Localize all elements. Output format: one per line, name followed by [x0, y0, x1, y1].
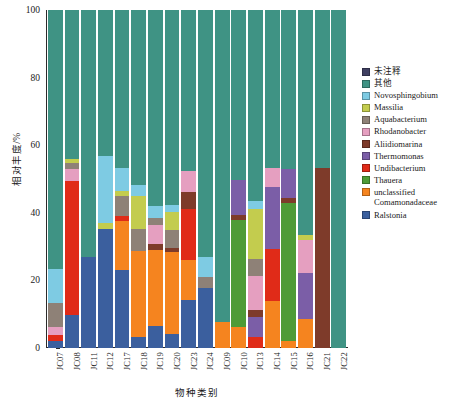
bar-segment[interactable] — [248, 201, 263, 208]
legend-item[interactable]: 未注释 — [362, 66, 462, 77]
bar-segment[interactable] — [331, 10, 346, 348]
bar-segment[interactable] — [98, 10, 113, 156]
bar-column[interactable] — [331, 10, 346, 348]
bar-segment[interactable] — [248, 317, 263, 337]
bar-column[interactable] — [231, 10, 246, 348]
legend-item[interactable]: Thauera — [362, 175, 462, 186]
bar-segment[interactable] — [65, 181, 80, 315]
bar-segment[interactable] — [281, 169, 296, 198]
bar-segment[interactable] — [248, 10, 263, 201]
bar-segment[interactable] — [265, 187, 280, 249]
bar-segment[interactable] — [115, 196, 130, 216]
bar-segment[interactable] — [148, 250, 163, 326]
legend-item[interactable]: Aquabacterium — [362, 114, 462, 125]
bar-segment[interactable] — [81, 10, 96, 257]
bar-segment[interactable] — [165, 205, 180, 212]
bar-segment[interactable] — [298, 240, 313, 273]
bar-segment[interactable] — [281, 203, 296, 341]
bar-segment[interactable] — [165, 252, 180, 334]
bar-column[interactable] — [165, 10, 180, 348]
bar-segment[interactable] — [115, 10, 130, 168]
bar-segment[interactable] — [181, 260, 196, 300]
bar-column[interactable] — [215, 10, 230, 348]
bar-segment[interactable] — [181, 300, 196, 348]
legend-item[interactable]: Thermomonas — [362, 151, 462, 162]
bar-column[interactable] — [298, 10, 313, 348]
bar-segment[interactable] — [148, 326, 163, 348]
bar-segment[interactable] — [165, 334, 180, 348]
bar-segment[interactable] — [231, 10, 246, 180]
bar-segment[interactable] — [181, 171, 196, 192]
bar-segment[interactable] — [148, 225, 163, 244]
bar-column[interactable] — [248, 10, 263, 348]
bar-segment[interactable] — [248, 276, 263, 310]
bar-segment[interactable] — [248, 259, 263, 276]
bar-segment[interactable] — [65, 169, 80, 182]
bar-segment[interactable] — [131, 10, 146, 185]
bar-segment[interactable] — [131, 196, 146, 229]
bar-segment[interactable] — [48, 269, 63, 303]
bar-segment[interactable] — [65, 315, 80, 348]
bar-segment[interactable] — [231, 220, 246, 327]
bar-segment[interactable] — [248, 310, 263, 317]
bar-column[interactable] — [315, 10, 330, 348]
bar-segment[interactable] — [281, 341, 296, 348]
bar-column[interactable] — [98, 10, 113, 348]
bar-column[interactable] — [131, 10, 146, 348]
bar-segment[interactable] — [115, 168, 130, 190]
bar-segment[interactable] — [131, 337, 146, 348]
bar-column[interactable] — [115, 10, 130, 348]
legend-item[interactable]: Massilia — [362, 102, 462, 113]
legend-item[interactable]: Aliidiomarina — [362, 139, 462, 150]
bar-segment[interactable] — [298, 10, 313, 235]
bar-segment[interactable] — [265, 168, 280, 188]
bar-column[interactable] — [181, 10, 196, 348]
bar-segment[interactable] — [98, 156, 113, 223]
legend-item[interactable]: 其他 — [362, 78, 462, 89]
legend-item[interactable]: unclassified Comamonadaceae — [362, 187, 462, 208]
bar-segment[interactable] — [148, 218, 163, 225]
bar-segment[interactable] — [181, 10, 196, 171]
bar-column[interactable] — [198, 10, 213, 348]
legend-item[interactable]: Ralstonia — [362, 210, 462, 221]
bar-segment[interactable] — [165, 10, 180, 205]
bar-segment[interactable] — [165, 230, 180, 247]
bar-column[interactable] — [65, 10, 80, 348]
bar-segment[interactable] — [115, 221, 130, 270]
bar-segment[interactable] — [298, 319, 313, 348]
bar-segment[interactable] — [98, 229, 113, 348]
bar-segment[interactable] — [148, 10, 163, 206]
bar-segment[interactable] — [315, 168, 330, 348]
legend-item[interactable]: Undibacterium — [362, 163, 462, 174]
bar-segment[interactable] — [231, 327, 246, 348]
bar-segment[interactable] — [148, 206, 163, 217]
bar-segment[interactable] — [81, 257, 96, 348]
bar-segment[interactable] — [48, 303, 63, 327]
legend-item[interactable]: Rhodanobacter — [362, 126, 462, 137]
bar-segment[interactable] — [215, 10, 230, 322]
bar-segment[interactable] — [48, 10, 63, 269]
bar-segment[interactable] — [131, 229, 146, 251]
bar-segment[interactable] — [198, 277, 213, 288]
bar-segment[interactable] — [48, 327, 63, 335]
bar-segment[interactable] — [265, 10, 280, 168]
bar-column[interactable] — [281, 10, 296, 348]
bar-segment[interactable] — [298, 273, 313, 319]
legend-item[interactable]: Novosphingobium — [362, 90, 462, 101]
bar-segment[interactable] — [165, 212, 180, 231]
bar-segment[interactable] — [215, 322, 230, 348]
bar-segment[interactable] — [131, 185, 146, 195]
bar-segment[interactable] — [181, 192, 196, 210]
bar-segment[interactable] — [265, 301, 280, 348]
bar-segment[interactable] — [65, 10, 80, 159]
bar-segment[interactable] — [281, 10, 296, 169]
bar-segment[interactable] — [198, 257, 213, 277]
bar-column[interactable] — [148, 10, 163, 348]
bar-segment[interactable] — [198, 288, 213, 348]
bar-segment[interactable] — [265, 249, 280, 301]
bar-segment[interactable] — [315, 10, 330, 168]
bar-segment[interactable] — [131, 251, 146, 337]
bar-segment[interactable] — [231, 180, 246, 215]
bar-segment[interactable] — [248, 209, 263, 260]
bar-column[interactable] — [81, 10, 96, 348]
